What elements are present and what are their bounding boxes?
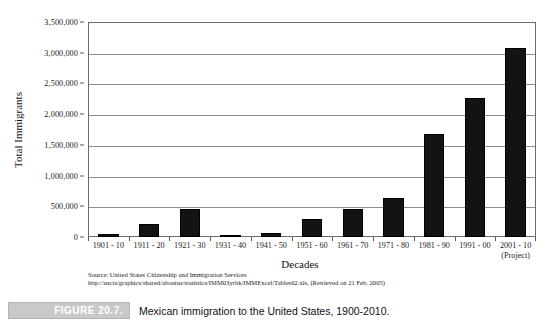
bar bbox=[383, 198, 403, 237]
x-tick-label-text: 1971 - 80 bbox=[378, 241, 409, 250]
y-tick-mark bbox=[80, 237, 84, 238]
x-tick-label-text: 1991 - 00 bbox=[459, 241, 490, 250]
source-line-2: http://uscis/graphics/shared/aboutus/sta… bbox=[88, 279, 528, 287]
bar bbox=[343, 209, 363, 237]
x-tick-label: 1931 - 40 bbox=[215, 241, 246, 250]
y-tick-mark bbox=[80, 52, 84, 53]
bar bbox=[424, 134, 444, 237]
y-tick-label: 1,500,000 bbox=[44, 140, 78, 149]
x-tick-label-text: 1961 - 70 bbox=[337, 241, 368, 250]
x-tick-label-text: 1941 - 50 bbox=[256, 241, 287, 250]
bar bbox=[180, 209, 200, 237]
bars-layer bbox=[88, 22, 536, 237]
x-tick-label: 1911 - 20 bbox=[134, 241, 165, 250]
x-tick-label-text: 1901 - 10 bbox=[93, 241, 124, 250]
x-tick-label-text: 2001 - 10 bbox=[500, 241, 531, 250]
x-tick-label: 1901 - 10 bbox=[93, 241, 124, 250]
x-tick-label: 1981 - 90 bbox=[418, 241, 449, 250]
x-tick-sublabel-text: (Project) bbox=[500, 251, 531, 260]
y-tick-label: 3,500,000 bbox=[44, 18, 78, 27]
x-axis-title: Decades bbox=[281, 258, 318, 270]
x-tick-label: 1961 - 70 bbox=[337, 241, 368, 250]
y-tick-mark bbox=[80, 175, 84, 176]
y-tick-mark bbox=[80, 22, 84, 23]
bar bbox=[505, 48, 525, 237]
y-axis-tick-labels: 0500,0001,000,0001,500,0002,000,0002,500… bbox=[0, 22, 84, 237]
source-note: Source: United States Citizenship and Im… bbox=[88, 271, 528, 288]
y-tick-mark bbox=[80, 144, 84, 145]
y-tick-label: 0 bbox=[74, 233, 78, 242]
figure-region: Total Immigrants 0500,0001,000,0001,500,… bbox=[0, 0, 555, 296]
x-tick-label-text: 1981 - 90 bbox=[418, 241, 449, 250]
x-tick-label-text: 1931 - 40 bbox=[215, 241, 246, 250]
x-tick-label: 2001 - 10(Project) bbox=[500, 241, 531, 260]
bar bbox=[302, 219, 322, 237]
x-tick-label: 1991 - 00 bbox=[459, 241, 490, 250]
y-tick-label: 1,000,000 bbox=[44, 171, 78, 180]
y-tick-label: 500,000 bbox=[51, 202, 78, 211]
y-tick-mark bbox=[80, 114, 84, 115]
x-tick-label-text: 1921 - 30 bbox=[174, 241, 205, 250]
bar bbox=[465, 98, 485, 237]
x-tick-label-text: 1951 - 60 bbox=[296, 241, 327, 250]
x-tick-label: 1971 - 80 bbox=[378, 241, 409, 250]
figure-caption-bar: FIGURE 20.7. Mexican immigration to the … bbox=[0, 298, 555, 323]
figure-number-badge: FIGURE 20.7. bbox=[8, 302, 130, 319]
bar bbox=[139, 224, 159, 238]
y-tick-mark bbox=[80, 206, 84, 207]
y-tick-mark bbox=[80, 83, 84, 84]
x-tick-label: 1951 - 60 bbox=[296, 241, 327, 250]
x-tick-label: 1941 - 50 bbox=[256, 241, 287, 250]
y-tick-label: 2,500,000 bbox=[44, 79, 78, 88]
x-tick-label-text: 1911 - 20 bbox=[134, 241, 165, 250]
figure-number-text: FIGURE 20.7. bbox=[54, 305, 123, 316]
source-line-1: Source: United States Citizenship and Im… bbox=[88, 271, 528, 279]
y-tick-label: 3,000,000 bbox=[44, 48, 78, 57]
y-tick-label: 2,000,000 bbox=[44, 110, 78, 119]
x-tick-label: 1921 - 30 bbox=[174, 241, 205, 250]
figure-caption-text: Mexican immigration to the United States… bbox=[139, 305, 389, 317]
